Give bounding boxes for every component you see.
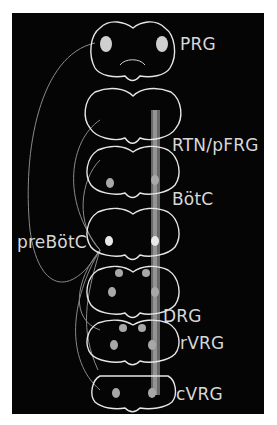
connection-lines xyxy=(28,43,100,390)
label-rvrg: rVRG xyxy=(180,335,224,352)
label-cvrg: cVRG xyxy=(176,386,223,403)
brainstem-sections-diagram xyxy=(0,0,277,425)
label-prg: PRG xyxy=(180,36,216,53)
label-rtn-pfrg: RTN/pFRG xyxy=(172,137,259,154)
label-botc: BötC xyxy=(172,191,213,208)
label-prebotc: preBötC xyxy=(17,234,87,251)
label-drg: DRG xyxy=(163,308,202,325)
brainstem-sections xyxy=(85,22,181,412)
